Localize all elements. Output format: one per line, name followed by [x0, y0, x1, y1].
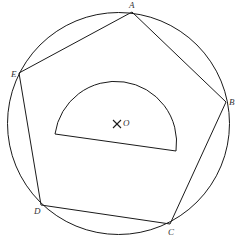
label-center-o: O	[123, 118, 130, 128]
label-vertex-c: C	[168, 227, 175, 237]
label-vertex-b: B	[229, 97, 235, 107]
geometry-diagram: O A B C D E	[0, 0, 238, 241]
label-vertex-d: D	[33, 206, 41, 216]
label-vertex-a: A	[128, 0, 135, 10]
label-vertex-e: E	[10, 69, 17, 79]
semicircle-region	[55, 81, 177, 151]
center-cross-icon	[113, 120, 121, 128]
